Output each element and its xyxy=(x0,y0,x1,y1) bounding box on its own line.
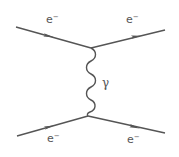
label-text: e xyxy=(126,13,133,26)
label-text: e xyxy=(46,13,53,26)
label-superscript: − xyxy=(133,13,139,21)
label-superscript: − xyxy=(53,13,59,21)
label-electron-top-left: e− xyxy=(46,14,59,25)
photon-wavy-line xyxy=(87,48,96,116)
arrow-icon xyxy=(131,36,141,39)
label-text: γ xyxy=(102,76,109,90)
electron-line-incoming-top xyxy=(16,27,91,48)
label-superscript: − xyxy=(134,133,140,141)
electron-line-outgoing-top xyxy=(91,30,165,48)
label-electron-bottom-left: e− xyxy=(47,133,60,144)
feynman-diagram xyxy=(0,0,179,157)
label-electron-bottom-right: e− xyxy=(127,134,140,145)
arrow-icon xyxy=(129,124,140,129)
label-superscript: − xyxy=(54,132,60,140)
label-photon: γ xyxy=(102,77,109,89)
label-electron-top-right: e− xyxy=(126,14,139,25)
electron-line-outgoing-bottom xyxy=(88,116,165,133)
label-text: e xyxy=(47,132,54,145)
label-text: e xyxy=(127,133,134,146)
